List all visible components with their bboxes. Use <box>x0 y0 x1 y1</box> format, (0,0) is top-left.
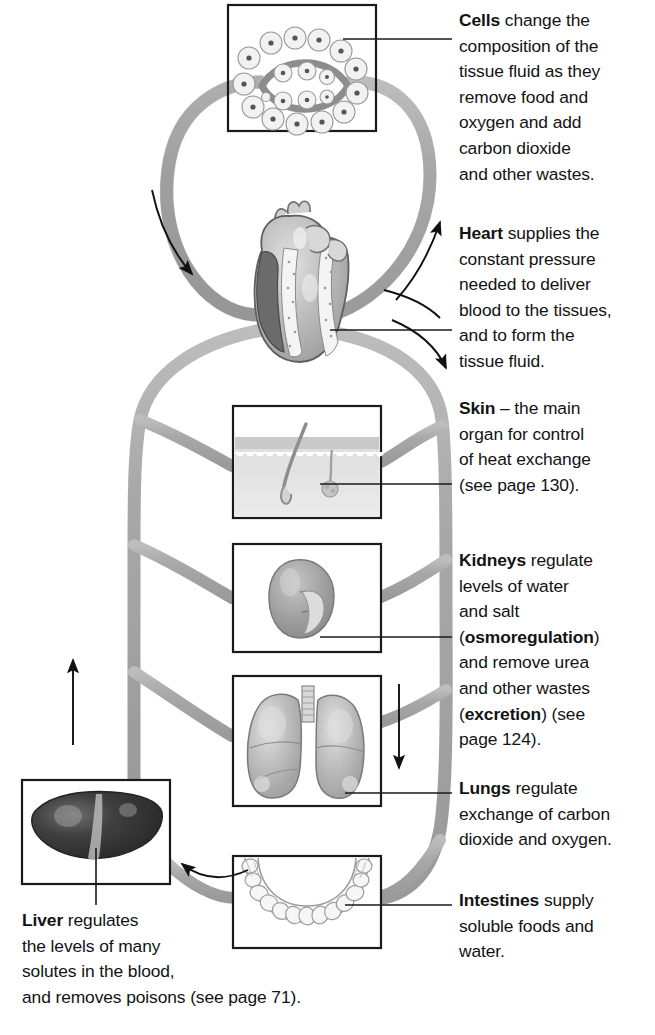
kidneys-box <box>233 544 381 652</box>
callout-liver: Liver regulates the levels of many solut… <box>22 908 452 1010</box>
callout-heart: Heart supplies the constant pressure nee… <box>459 221 655 375</box>
heart-organ-icon <box>255 201 349 362</box>
diagram-canvas: Cells change the composition of the tiss… <box>0 0 655 1035</box>
callout-cells-body: change the composition of the tissue flu… <box>459 10 600 184</box>
callout-kidneys-osmoregulation: osmoregulation <box>465 627 594 647</box>
callout-heart-lead: Heart <box>459 223 503 243</box>
blood-flow-arrow-heart-in <box>384 290 440 318</box>
callout-lungs-lead: Lungs <box>459 778 511 798</box>
callout-intestines-lead: Intestines <box>459 890 539 910</box>
skin-box <box>233 406 384 518</box>
callout-liver-body: regulates the levels of many solutes in … <box>22 910 301 1007</box>
callout-kidneys-excretion: excretion <box>465 704 541 724</box>
callout-heart-body: supplies the constant pressure needed to… <box>459 223 612 371</box>
callout-skin: Skin – the main organ for control of hea… <box>459 396 655 498</box>
kidney-organ-icon <box>269 560 334 638</box>
callout-kidneys: Kidneys regulate levels of water and sal… <box>459 548 655 753</box>
callout-cells-lead: Cells <box>459 10 500 30</box>
callout-skin-lead: Skin <box>459 398 495 418</box>
lungs-box <box>233 676 381 806</box>
callout-lungs: Lungs regulate exchange of carbon dioxid… <box>459 776 655 853</box>
skin-cross-section-icon <box>235 424 384 516</box>
callout-cells: Cells change the composition of the tiss… <box>459 8 655 187</box>
cells-box <box>228 5 376 135</box>
callout-liver-lead: Liver <box>22 910 63 930</box>
callout-intestines: Intestines supply soluble foods and wate… <box>459 888 655 965</box>
callout-kidneys-lead: Kidneys <box>459 550 526 570</box>
